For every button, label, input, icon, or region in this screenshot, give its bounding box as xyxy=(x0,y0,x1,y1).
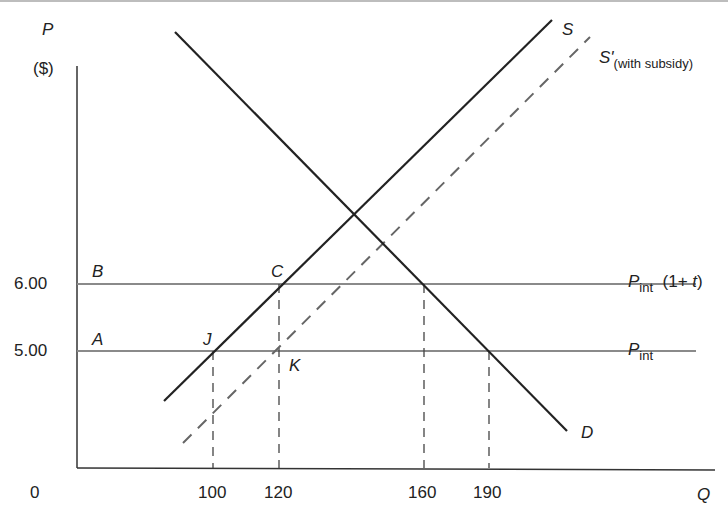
curve-label-s-prime: S'(with subsidy) xyxy=(599,49,693,66)
y-tick-5: 5.00 xyxy=(14,342,47,359)
demand-curve-d xyxy=(175,32,567,431)
p-axis-label: P xyxy=(42,21,53,38)
x-tick-160: 160 xyxy=(408,484,436,501)
s-prime-main: S' xyxy=(599,48,614,67)
origin-label: 0 xyxy=(30,484,39,501)
point-label-k: K xyxy=(289,357,300,374)
pint-t-main: P xyxy=(628,272,639,291)
q-axis-label: Q xyxy=(697,486,710,503)
x-tick-100: 100 xyxy=(198,484,226,501)
point-label-c: C xyxy=(271,263,283,280)
pint-main: P xyxy=(628,340,639,359)
supply-curve-s xyxy=(164,20,552,401)
supply-curve-s-prime xyxy=(183,37,590,443)
line-label-pint: Pint xyxy=(628,341,653,358)
point-label-b: B xyxy=(92,263,103,280)
pint-t-subscript: int xyxy=(639,280,653,295)
point-label-j: J xyxy=(203,331,212,348)
pint-t-close: ) xyxy=(697,272,703,291)
point-label-a: A xyxy=(92,331,103,348)
y-tick-6: 6.00 xyxy=(14,275,47,292)
chart-canvas xyxy=(0,0,728,510)
curve-label-d: D xyxy=(581,424,593,441)
s-prime-subscript: (with subsidy) xyxy=(614,56,693,71)
line-label-pint-1-plus-t: Pint (1+ t) xyxy=(628,273,703,290)
x-tick-190: 190 xyxy=(473,484,501,501)
x-tick-120: 120 xyxy=(264,484,292,501)
pint-subscript: int xyxy=(639,348,653,363)
x-axis xyxy=(77,468,715,470)
pint-t-open: (1+ xyxy=(663,272,693,291)
p-axis-unit: ($) xyxy=(33,60,54,77)
curve-label-s: S xyxy=(562,21,573,38)
